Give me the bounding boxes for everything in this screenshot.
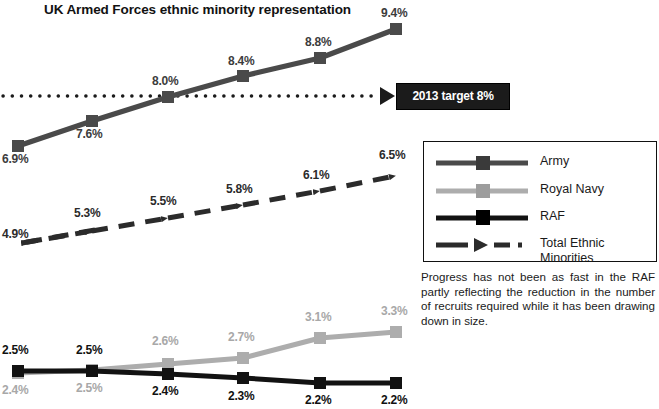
data-label-army-3: 8.4%	[228, 54, 255, 68]
data-point-marker	[237, 372, 249, 384]
data-label-raf-3: 2.3%	[228, 389, 255, 403]
data-label-army-2: 8.0%	[152, 74, 179, 88]
data-point-marker	[86, 115, 98, 127]
data-label-total-2: 5.5%	[150, 194, 177, 208]
data-label-total-5: 6.5%	[379, 148, 406, 162]
data-label-raf-2: 2.4%	[152, 384, 179, 398]
series-army	[12, 23, 402, 152]
data-point-marker	[390, 377, 402, 389]
legend-item-army[interactable]: Army	[424, 150, 656, 176]
data-point-marker	[237, 352, 249, 364]
data-label-raf-5: 2.2%	[381, 393, 408, 407]
data-point-marker	[390, 23, 402, 35]
data-point-marker	[12, 140, 24, 152]
data-point-marker	[162, 91, 174, 103]
legend-label-royal-navy: Royal Navy	[540, 182, 604, 197]
chart-caption: Progress has not been as fast in the RAF…	[421, 270, 655, 328]
chart-legend: Army Royal Navy RAF Total Ethnic Mi	[423, 141, 657, 262]
legend-swatch-royal-navy	[434, 178, 530, 204]
legend-item-total-ethnic-minorities[interactable]: Total Ethnic Minorities	[424, 232, 656, 258]
data-label-navy-1: 2.5%	[76, 381, 103, 395]
data-point-marker	[237, 70, 249, 82]
data-label-navy-0: 2.4%	[2, 383, 29, 397]
legend-swatch-raf	[434, 205, 530, 231]
data-label-navy-4: 3.1%	[305, 310, 332, 324]
data-label-army-1: 7.6%	[76, 127, 103, 141]
legend-swatch-army	[434, 150, 530, 176]
data-point-marker	[390, 326, 402, 338]
data-label-total-4: 6.1%	[303, 168, 330, 182]
target-callout-label: 2013 target 8%	[397, 89, 509, 103]
target-arrowhead	[380, 87, 395, 105]
legend-swatch-total-ethnic-minorities	[434, 232, 530, 258]
data-label-army-0: 6.9%	[2, 152, 29, 166]
legend-item-royal-navy[interactable]: Royal Navy	[424, 178, 656, 204]
legend-item-raf[interactable]: RAF	[424, 205, 656, 231]
data-label-raf-0: 2.5%	[2, 343, 29, 357]
legend-label-raf: RAF	[540, 209, 565, 224]
chart-container: UK Armed Forces ethnic minority represen…	[0, 0, 659, 409]
data-label-navy-5: 3.3%	[381, 304, 408, 318]
legend-label-army: Army	[540, 154, 569, 169]
target-callout-box: 2013 target 8%	[396, 83, 510, 110]
data-point-marker	[314, 52, 326, 64]
data-label-army-5: 9.4%	[381, 6, 408, 20]
data-label-army-4: 8.8%	[305, 35, 332, 49]
data-point-marker	[162, 368, 174, 380]
data-point-marker	[86, 365, 98, 377]
data-label-total-0: 4.9%	[2, 227, 29, 241]
data-label-total-1: 5.3%	[74, 206, 101, 220]
data-label-navy-3: 2.7%	[228, 330, 255, 344]
data-point-marker	[12, 365, 24, 377]
data-label-navy-2: 2.6%	[152, 334, 179, 348]
data-label-raf-1: 2.5%	[76, 343, 103, 357]
legend-label-total-ethnic-minorities: Total Ethnic Minorities	[540, 236, 605, 266]
data-point-marker	[314, 377, 326, 389]
series-raf	[12, 365, 402, 389]
data-label-total-3: 5.8%	[226, 182, 253, 196]
data-point-marker	[314, 332, 326, 344]
data-label-raf-4: 2.2%	[305, 393, 332, 407]
